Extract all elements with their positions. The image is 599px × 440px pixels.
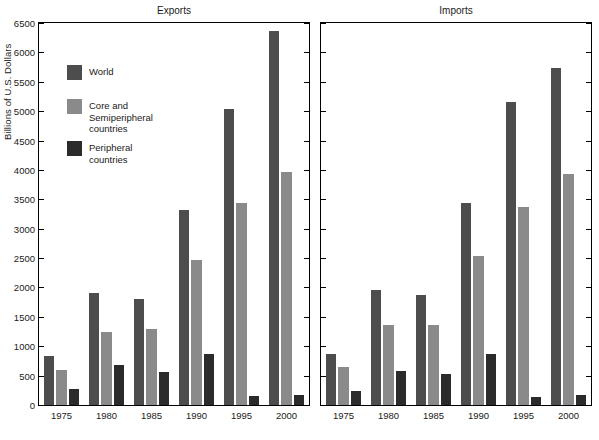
- y-tick-label: 5500: [14, 76, 35, 87]
- bar: [56, 370, 67, 405]
- y-tick-mark: [304, 405, 309, 406]
- bar: [461, 203, 472, 405]
- bar: [416, 295, 427, 405]
- bar: [518, 207, 529, 405]
- bar: [269, 31, 280, 405]
- y-tick-label: 1000: [14, 341, 35, 352]
- bar-group: 2000: [546, 23, 591, 405]
- y-tick-label: 2500: [14, 253, 35, 264]
- x-tick-label: 2000: [546, 410, 591, 421]
- legend-item: World: [67, 65, 114, 80]
- bar: [236, 203, 247, 405]
- bar: [486, 354, 497, 405]
- bar: [551, 68, 562, 405]
- panel-exports-plot: 0500100015002000250030003500400045005000…: [38, 22, 310, 406]
- bar: [146, 329, 157, 405]
- y-tick-mark: [321, 405, 326, 406]
- panel-imports-plot: 197519801985199019952000: [320, 22, 592, 406]
- bar: [69, 389, 80, 405]
- bar: [249, 396, 260, 405]
- bar: [473, 256, 484, 405]
- x-tick-label: 1980: [366, 410, 411, 421]
- legend-swatch: [67, 99, 82, 114]
- bar: [114, 365, 125, 405]
- bar-group: 1980: [366, 23, 411, 405]
- y-tick-label: 1500: [14, 311, 35, 322]
- bar-group: 1980: [84, 23, 129, 405]
- bar: [326, 354, 337, 405]
- panel-imports: Imports 197519801985199019952000: [320, 22, 592, 406]
- bar-group: 1975: [321, 23, 366, 405]
- x-tick-label: 2000: [264, 410, 309, 421]
- bar: [134, 299, 145, 405]
- x-tick-label: 1995: [219, 410, 264, 421]
- bar: [159, 372, 170, 405]
- x-tick-label: 1990: [174, 410, 219, 421]
- bar: [441, 374, 452, 405]
- bar: [531, 397, 542, 405]
- y-axis-title: Billions of U.S. Dollars: [2, 0, 13, 140]
- bar: [89, 293, 100, 405]
- bar: [351, 391, 362, 405]
- bars-exports: 197519801985199019952000: [39, 23, 309, 405]
- x-tick-label: 1975: [39, 410, 84, 421]
- legend-label: Peripheral countries: [89, 141, 132, 165]
- x-tick-label: 1975: [321, 410, 366, 421]
- bar: [383, 325, 394, 406]
- x-tick-label: 1990: [456, 410, 501, 421]
- y-tick-label: 6000: [14, 47, 35, 58]
- bar: [44, 356, 55, 405]
- y-tick-label: 3000: [14, 223, 35, 234]
- bar: [191, 260, 202, 405]
- legend-swatch: [67, 141, 82, 156]
- bar: [338, 367, 349, 405]
- x-tick-label: 1980: [84, 410, 129, 421]
- bar: [294, 395, 305, 405]
- bar: [563, 174, 574, 405]
- y-tick-mark: [39, 405, 44, 406]
- bar: [576, 395, 587, 405]
- bar-group: 1995: [501, 23, 546, 405]
- x-tick-label: 1985: [411, 410, 456, 421]
- y-tick-label: 0: [30, 400, 35, 411]
- y-tick-label: 500: [19, 370, 35, 381]
- y-tick-label: 4000: [14, 164, 35, 175]
- y-tick-label: 3500: [14, 194, 35, 205]
- bar: [204, 354, 215, 405]
- x-tick-label: 1995: [501, 410, 546, 421]
- bar-group: 1990: [174, 23, 219, 405]
- bar: [281, 172, 292, 405]
- legend-label: Core and Semiperipheral countries: [89, 99, 153, 135]
- legend-item: Peripheral countries: [67, 141, 132, 165]
- x-tick-label: 1985: [129, 410, 174, 421]
- y-tick-label: 2000: [14, 282, 35, 293]
- panel-imports-title: Imports: [320, 5, 592, 16]
- y-tick-mark: [586, 405, 591, 406]
- bar-group: 1985: [129, 23, 174, 405]
- bar: [371, 290, 382, 405]
- legend-label: World: [89, 65, 114, 78]
- bar: [179, 210, 190, 405]
- legend-item: Core and Semiperipheral countries: [67, 99, 153, 135]
- bar: [101, 332, 112, 405]
- bar-group: 2000: [264, 23, 309, 405]
- bar: [396, 371, 407, 405]
- y-tick-label: 4500: [14, 135, 35, 146]
- legend-swatch: [67, 65, 82, 80]
- bar-group: 1975: [39, 23, 84, 405]
- bars-imports: 197519801985199019952000: [321, 23, 591, 405]
- bar-group: 1995: [219, 23, 264, 405]
- bar: [224, 109, 235, 405]
- bar: [506, 102, 517, 405]
- panel-exports: Exports 05001000150020002500300035004000…: [38, 22, 310, 406]
- y-tick-label: 5000: [14, 106, 35, 117]
- panel-exports-title: Exports: [38, 5, 310, 16]
- bar: [428, 325, 439, 405]
- bar-group: 1985: [411, 23, 456, 405]
- bar-group: 1990: [456, 23, 501, 405]
- y-tick-label: 6500: [14, 18, 35, 29]
- chart-figure: Billions of U.S. Dollars Exports 0500100…: [0, 0, 599, 440]
